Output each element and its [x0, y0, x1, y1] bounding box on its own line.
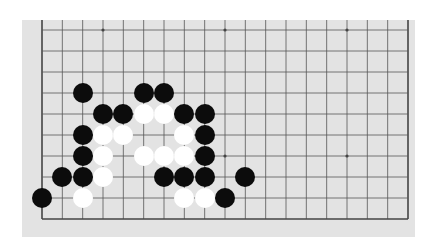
black-stone	[73, 83, 93, 103]
black-stone	[73, 125, 93, 145]
star-point	[345, 154, 348, 157]
star-point	[101, 28, 104, 31]
white-stone	[134, 146, 154, 166]
white-stone	[93, 125, 113, 145]
white-stone	[93, 146, 113, 166]
black-stone	[195, 146, 215, 166]
black-stone	[154, 167, 174, 187]
white-stone	[93, 167, 113, 187]
star-point	[223, 28, 226, 31]
black-stone	[32, 188, 52, 208]
white-stone	[134, 104, 154, 124]
star-point	[223, 154, 226, 157]
black-stone	[93, 104, 113, 124]
black-stone	[154, 83, 174, 103]
black-stone	[195, 125, 215, 145]
white-stone	[154, 146, 174, 166]
white-stone	[195, 188, 215, 208]
white-stone	[73, 188, 93, 208]
black-stone	[73, 146, 93, 166]
go-board	[22, 20, 415, 237]
black-stone	[134, 83, 154, 103]
black-stone	[73, 167, 93, 187]
black-stone	[195, 104, 215, 124]
black-stone	[215, 188, 235, 208]
white-stone	[154, 104, 174, 124]
star-point	[345, 28, 348, 31]
black-stone	[195, 167, 215, 187]
